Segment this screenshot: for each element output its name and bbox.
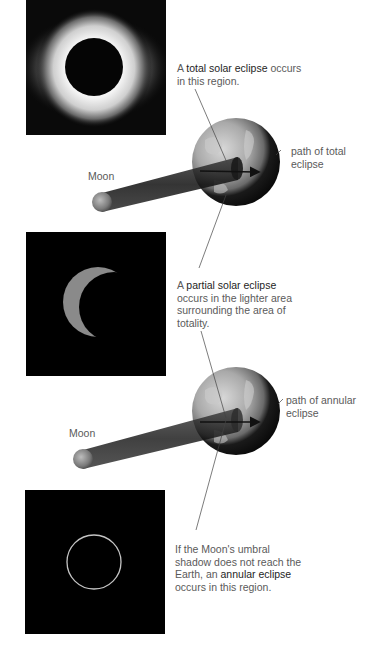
path-of-total-eclipse-label: path of total eclipse [291, 145, 371, 170]
path-of-annular-eclipse-label: path of annular eclipse [286, 394, 375, 419]
eclipse-geometry-illustration [0, 0, 375, 648]
path-arrow-total [200, 171, 258, 172]
moon-label-annular: Moon [69, 427, 95, 440]
moon-label-total: Moon [88, 170, 114, 183]
leader-line-partial-top [199, 195, 226, 268]
moon-annular [73, 449, 93, 469]
moon-total [92, 192, 112, 212]
